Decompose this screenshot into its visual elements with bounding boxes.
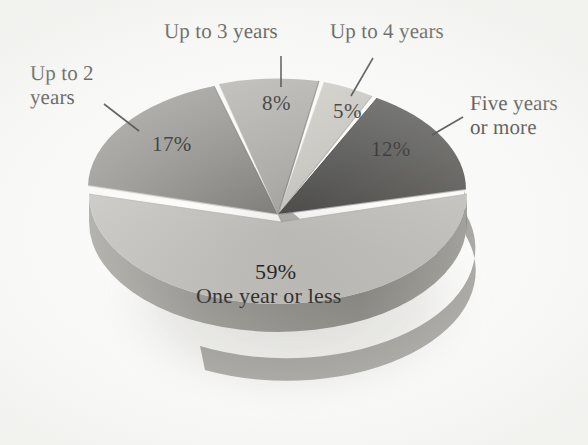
callout-label-up-to-2-years: Up to 2 years [30,62,94,109]
slice-value-up-to-3-years: 8% [262,91,291,116]
pie-chart-figure: Up to 2 years Up to 3 years Up to 4 year… [0,0,588,445]
slice-value-up-to-2-years: 17% [152,132,192,157]
slice-value-five-years-or-more: 12% [371,137,411,162]
callout-label-up-to-3-years: Up to 3 years [164,20,278,44]
slice-label-one-year-or-less: One year or less [196,283,342,309]
callout-label-five-years-or-more: Five years or more [470,92,558,139]
leader-line-up-to-4-years [351,58,373,96]
leader-line-five-years-or-more [432,117,463,135]
callout-label-up-to-4-years: Up to 4 years [330,20,444,44]
slice-value-one-year-or-less: 59% [255,259,297,285]
slice-value-up-to-4-years: 5% [333,99,362,124]
